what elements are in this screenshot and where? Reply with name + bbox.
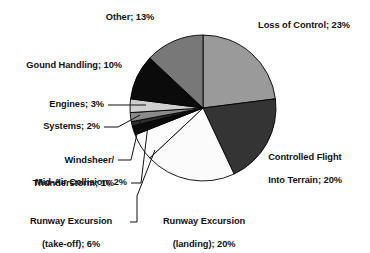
label-windsheer-thunderstorm: Windsheer/ Thunderstorm; 1%: [0, 143, 114, 201]
label-takeoff-line2: (take-off); 6%: [42, 239, 100, 249]
label-systems: Systems; 2%: [0, 121, 100, 133]
label-landing-line1: Runway Excursion: [163, 216, 245, 226]
label-landing-line2: (landing); 20%: [173, 239, 236, 249]
label-cfit-line2: Into Terrain; 20%: [268, 175, 342, 185]
label-runway-excursion-takeoff: Runway Excursion (take-off); 6%: [8, 204, 124, 253]
label-other: Other; 13%: [85, 12, 175, 24]
label-controlled-flight-into-terrain: Controlled Flight Into Terrain; 20%: [258, 140, 370, 198]
label-ground-handling: Gound Handling; 10%: [0, 60, 122, 72]
label-windsheer-line1: Windsheer/: [64, 155, 114, 165]
label-runway-excursion-landing: Runway Excursion (landing); 20%: [141, 204, 257, 253]
label-engines: Engines; 3%: [0, 99, 104, 111]
label-mid-air-collision: Mid-Air Collision; 2%: [0, 177, 127, 189]
label-takeoff-line1: Runway Excursion: [30, 216, 112, 226]
pie-slice-loss-of-control[interactable]: Loss of Control; 23%: [203, 35, 275, 108]
label-loss-of-control: Loss of Control; 23%: [258, 20, 370, 32]
label-cfit-line1: Controlled Flight: [268, 152, 342, 162]
